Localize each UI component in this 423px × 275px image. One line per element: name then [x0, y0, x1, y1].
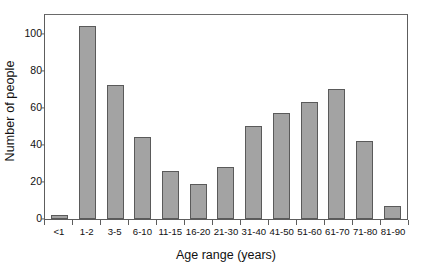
x-tick-mark: [72, 220, 73, 225]
bar-slot: [74, 15, 102, 219]
bar-slot: [157, 15, 185, 219]
x-tick-mark: [380, 220, 381, 225]
x-tick-label: 81-90: [379, 226, 407, 242]
x-tick-label: 71-80: [351, 226, 379, 242]
x-tick-mark: [156, 220, 157, 225]
x-tick-label: 3-5: [101, 226, 129, 242]
y-tick-mark: [41, 181, 45, 182]
bar-slot: [268, 15, 296, 219]
x-axis-tick-labels: <11-23-56-1011-1516-2021-3031-4041-5051-…: [44, 226, 408, 242]
y-tick-mark: [41, 33, 45, 34]
bar: [356, 141, 373, 219]
bar: [384, 206, 401, 219]
x-tick-mark: [268, 220, 269, 225]
x-tick-mark: [324, 220, 325, 225]
bar-slot: [323, 15, 351, 219]
bar: [107, 85, 124, 219]
x-tick-label: 61-70: [323, 226, 351, 242]
x-tick-label: <1: [45, 226, 73, 242]
x-tick-label: 16-20: [184, 226, 212, 242]
bar: [190, 184, 207, 219]
x-tick-mark: [184, 220, 185, 225]
x-tick-label: 1-2: [73, 226, 101, 242]
bar: [162, 171, 179, 219]
bar-slot: [351, 15, 379, 219]
bar-slot: [46, 15, 74, 219]
x-tick-label: 21-30: [212, 226, 240, 242]
bar: [51, 215, 68, 219]
x-tick-mark: [352, 220, 353, 225]
bar-series: [45, 15, 407, 219]
x-tick-label: 41-50: [268, 226, 296, 242]
x-tick-mark: [44, 220, 45, 225]
bar: [301, 102, 318, 219]
bar: [273, 113, 290, 219]
y-axis-title-text: Number of people: [3, 61, 17, 162]
y-tick-mark: [41, 144, 45, 145]
plot-area: [44, 14, 408, 220]
bar-slot: [184, 15, 212, 219]
x-axis-title: Age range (years): [44, 248, 408, 262]
bar-slot: [240, 15, 268, 219]
x-tick-label: 6-10: [129, 226, 157, 242]
x-axis-tick-marks: [44, 220, 408, 225]
y-tick-label: 100: [24, 27, 42, 39]
bar: [245, 126, 262, 219]
y-tick-mark: [41, 107, 45, 108]
x-tick-mark: [128, 220, 129, 225]
x-tick-mark: [240, 220, 241, 225]
bar: [134, 137, 151, 219]
bar-slot: [295, 15, 323, 219]
bar-chart-figure: Number of people 020406080100 <11-23-56-…: [0, 0, 423, 275]
x-tick-mark: [408, 220, 409, 225]
bar-slot: [212, 15, 240, 219]
x-tick-mark: [296, 220, 297, 225]
y-tick-mark: [41, 70, 45, 71]
bar-slot: [129, 15, 157, 219]
bar-slot: [378, 15, 406, 219]
x-tick-label: 11-15: [156, 226, 184, 242]
bar: [217, 167, 234, 219]
x-tick-label: 51-60: [296, 226, 324, 242]
bar: [328, 89, 345, 219]
x-tick-mark: [100, 220, 101, 225]
x-tick-mark: [212, 220, 213, 225]
bar-slot: [101, 15, 129, 219]
y-axis-tick-labels: 020406080100: [16, 0, 42, 275]
bar: [79, 26, 96, 219]
x-tick-label: 31-40: [240, 226, 268, 242]
